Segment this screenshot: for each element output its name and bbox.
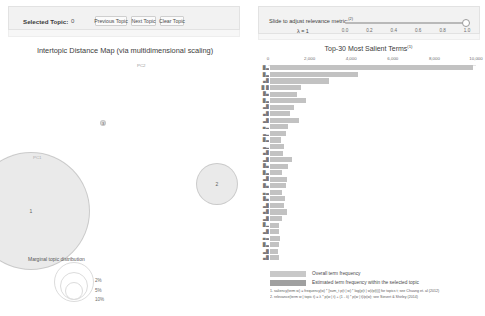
bar-term-label: ▃█ xyxy=(258,118,269,123)
bar-term-label: █▃ xyxy=(258,65,269,70)
topic-bubble-2[interactable]: 2 xyxy=(196,163,238,205)
bar-overall-frequency xyxy=(270,98,306,103)
bar-overall-frequency xyxy=(270,216,282,221)
bar-term-label: █▄ xyxy=(258,91,269,96)
bar-overall-frequency xyxy=(270,105,294,110)
clear-topic-button[interactable]: Clear Topic xyxy=(160,16,184,26)
bar-overall-frequency xyxy=(270,229,279,234)
bar-term-label: █▂ xyxy=(258,222,269,227)
selected-topic-value[interactable]: 0 xyxy=(71,18,74,24)
bar-term-label: ▄█ xyxy=(258,150,269,155)
relevance-slider-bar: Slide to adjust relevance metric:(2) λ =… xyxy=(258,6,480,34)
slider-tick: 0.8 xyxy=(439,28,445,33)
bar-overall-frequency xyxy=(270,65,473,70)
salient-terms-bar-list: █▃█▃▄██ ██▄█▃▃█▄█▃█▄▂▃▂█▃▃▂▄█▃██▄█▃▃██▄▄… xyxy=(252,65,485,261)
bar-overall-frequency xyxy=(270,92,297,97)
bar-term-label: ▄▃ xyxy=(258,190,269,195)
bar-term-label: █▄ xyxy=(258,196,269,201)
bar-overall-frequency xyxy=(270,111,290,116)
chart-title-text: Top-30 Most Salient Terms xyxy=(325,45,408,52)
bar-overall-frequency xyxy=(270,118,299,123)
bar-term-label: ▃▂ xyxy=(258,131,269,136)
bar-overall-frequency xyxy=(270,203,284,208)
bar-term-label: ▃█ xyxy=(258,249,269,254)
bar-term-label: █▄ xyxy=(258,183,269,188)
bar-row[interactable]: ▄█ xyxy=(252,255,485,262)
bar-term-label: █▃ xyxy=(258,72,269,77)
axis-label-pc2: PC2 xyxy=(137,63,146,68)
marginal-tick-2: 2% xyxy=(95,278,102,283)
legend-label: Estimated term frequency within the sele… xyxy=(312,280,419,285)
bar-overall-frequency xyxy=(270,209,287,214)
bar-overall-frequency xyxy=(270,151,283,156)
bar-overall-frequency xyxy=(270,255,279,260)
bar-overall-frequency xyxy=(270,131,286,136)
legend-row: Estimated term frequency within the sele… xyxy=(270,279,485,288)
bar-term-label: ▄█ xyxy=(258,111,269,116)
bar-term-label: █▄ xyxy=(258,163,269,168)
relevance-slider-base xyxy=(258,34,480,40)
bar-overall-frequency xyxy=(270,236,280,241)
bar-overall-frequency xyxy=(270,144,284,149)
selected-topic-label: Selected Topic: xyxy=(23,18,68,25)
topic-control-bar: Selected Topic: 0 Previous Topic Next To… xyxy=(8,6,240,30)
topic-bubble-1[interactable]: 1 xyxy=(0,152,90,270)
bar-overall-frequency xyxy=(270,196,285,201)
slider-tick: 0.4 xyxy=(391,28,397,33)
relevance-slider-caption: Slide to adjust relevance metric:(2) xyxy=(269,17,353,24)
relevance-slider-handle[interactable] xyxy=(462,19,470,27)
bar-term-label: ▄▂ xyxy=(258,124,269,129)
salient-terms-panel: Slide to adjust relevance metric:(2) λ =… xyxy=(252,0,485,316)
slider-tick: 0.2 xyxy=(366,28,372,33)
legend-swatch-overall xyxy=(270,271,306,277)
relevance-slider-caption-text: Slide to adjust relevance metric: xyxy=(269,18,348,24)
bar-term-label: ▄█ xyxy=(258,78,269,83)
bar-term-label: █▃ xyxy=(258,242,269,247)
bar-term-label: █▃ xyxy=(258,98,269,103)
x-axis-tick: 0 xyxy=(267,56,269,61)
bar-overall-frequency xyxy=(270,177,287,182)
legend-row: Overall term frequency xyxy=(270,270,485,279)
intertopic-distance-panel: Selected Topic: 0 Previous Topic Next To… xyxy=(0,0,250,316)
topic-bubble-3[interactable]: 3 xyxy=(100,120,106,126)
x-axis-tick: 2,000 xyxy=(304,56,315,61)
slider-tick: 0.0 xyxy=(342,28,348,33)
legend-label: Overall term frequency xyxy=(312,271,361,276)
previous-topic-button[interactable]: Previous Topic xyxy=(95,16,127,26)
bar-overall-frequency xyxy=(270,78,329,83)
chart-footnotes: 1. saliency(term w) = frequency(w) * [su… xyxy=(270,288,485,300)
marginal-tick-5: 5% xyxy=(95,288,102,293)
chart-title: Top-30 Most Salient Terms(1) xyxy=(252,44,485,52)
bar-term-label: ▄█ xyxy=(258,209,269,214)
bar-overall-frequency xyxy=(270,183,286,188)
x-axis-tick: 6,000 xyxy=(387,56,398,61)
relevance-slider-footnote-ref: (2) xyxy=(348,17,353,21)
chart-legend: Overall term frequencyEstimated term fre… xyxy=(270,270,485,288)
bar-overall-frequency xyxy=(270,164,288,169)
topic-control-bar-base xyxy=(8,30,240,37)
bar-overall-frequency xyxy=(270,85,301,90)
marginal-tick-10: 10% xyxy=(95,297,104,302)
bar-term-label: ▃█ xyxy=(258,176,269,181)
legend-swatch-selected xyxy=(270,280,306,286)
bar-term-label: █▃ xyxy=(258,137,269,142)
chart-x-axis-ticks: 02,0004,0006,0008,00010,000 xyxy=(268,56,476,64)
marginal-ring-2 xyxy=(65,282,83,300)
bar-overall-frequency xyxy=(270,190,282,195)
relevance-slider-track[interactable] xyxy=(345,22,467,24)
slider-tick: 0.6 xyxy=(415,28,421,33)
chart-title-footnote-ref: (1) xyxy=(407,44,412,49)
topic-bubble-label: 1 xyxy=(30,208,33,214)
bar-term-label: ▃█ xyxy=(258,157,269,162)
bar-term-label: ▄█ xyxy=(258,255,269,260)
bar-overall-frequency xyxy=(270,170,282,175)
bar-overall-frequency xyxy=(270,157,292,162)
bar-term-label: █ █ xyxy=(258,85,269,90)
next-topic-button[interactable]: Next Topic xyxy=(131,16,156,26)
bar-term-label: ▃█ xyxy=(258,104,269,109)
bar-overall-frequency xyxy=(270,249,278,254)
marginal-topic-distribution-title: Marginal topic distribution xyxy=(28,256,85,262)
bar-term-label: ▃▂ xyxy=(258,144,269,149)
bar-overall-frequency xyxy=(270,223,279,228)
intertopic-map-title: Intertopic Distance Map (via multidimens… xyxy=(0,46,250,55)
